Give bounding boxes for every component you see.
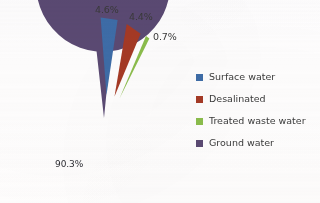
- legend-item-ground-water[interactable]: Ground water: [196, 132, 318, 154]
- data-label-ground-water: 90.3%: [55, 159, 83, 169]
- data-label-desalinated: 4.4%: [129, 11, 153, 22]
- legend-item-treated-waste-water[interactable]: Treated waste water: [196, 110, 318, 132]
- legend-label-surface-water: Surface water: [209, 72, 275, 82]
- legend-item-desalinated[interactable]: Desalinated: [196, 88, 318, 110]
- legend-label-ground-water: Ground water: [209, 138, 274, 148]
- pie-chart-figure: 4.6% 4.4% 0.7% 90.3% Surface water Desal…: [0, 0, 320, 203]
- legend-swatch-desalinated: [196, 96, 203, 103]
- chart-legend: Surface water Desalinated Treated waste …: [196, 66, 318, 154]
- legend-label-desalinated: Desalinated: [209, 94, 266, 104]
- legend-item-surface-water[interactable]: Surface water: [196, 66, 318, 88]
- data-label-surface-water: 4.6%: [95, 4, 119, 15]
- legend-swatch-surface-water: [196, 74, 203, 81]
- legend-swatch-ground-water: [196, 140, 203, 147]
- data-label-treated-waste-water: 0.7%: [153, 31, 177, 42]
- legend-swatch-treated-waste-water: [196, 118, 203, 125]
- legend-label-treated-waste-water: Treated waste water: [209, 116, 306, 126]
